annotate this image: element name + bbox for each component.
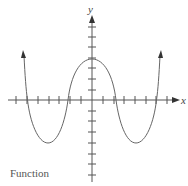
function-graph: x y [0, 0, 188, 186]
x-axis-label: x [180, 94, 186, 106]
x-axis-arrow-icon [172, 97, 180, 103]
y-axis-label: y [87, 3, 93, 15]
y-axis-arrow-icon [89, 15, 95, 23]
x-axis: x [8, 94, 186, 106]
figure-caption: Function [10, 167, 49, 179]
y-axis: y [87, 3, 96, 182]
curve-left-arrow-icon [21, 50, 26, 58]
curve-right-arrow-icon [158, 50, 163, 58]
